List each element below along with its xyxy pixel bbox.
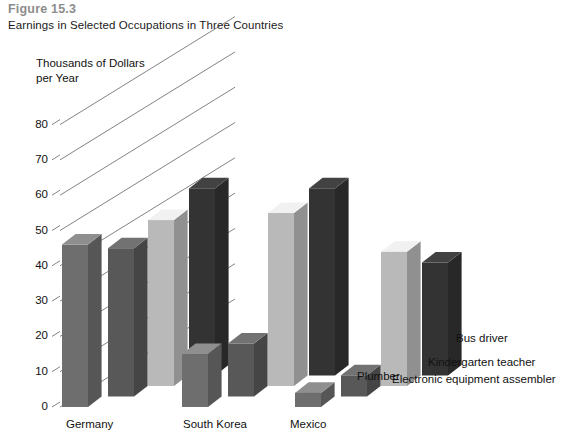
- bar-side-face: [208, 344, 222, 407]
- bar-side-face: [294, 202, 308, 386]
- bar-south-korea-electronic-equipment-assembler: [228, 333, 268, 396]
- bar-front-face: [148, 220, 174, 386]
- y-tick-mark-0: [52, 402, 60, 407]
- bar-mexico-plumber: [295, 382, 335, 407]
- bar-south-korea-plumber: [182, 344, 222, 407]
- gridline-70: [60, 52, 235, 160]
- y-tick-mark-80: [52, 120, 60, 125]
- bar-front-face: [268, 213, 294, 386]
- bar-front-face: [182, 354, 208, 407]
- bar-front-face: [381, 252, 407, 386]
- y-tick-label-60: 60: [22, 188, 48, 200]
- series-label-bus-driver: Bus driver: [456, 332, 508, 344]
- y-tick-label-10: 10: [22, 365, 48, 377]
- y-tick-label-50: 50: [22, 224, 48, 236]
- y-tick-mark-70: [52, 155, 60, 160]
- gridline-80: [60, 17, 235, 125]
- bar-germany-plumber: [62, 234, 102, 407]
- bar-germany-kindergarten-teacher: [148, 210, 188, 386]
- bar-south-korea-kindergarten-teacher: [268, 202, 308, 386]
- category-label-mexico: Mexico: [290, 418, 326, 430]
- bar-side-face: [407, 241, 421, 386]
- bar-front-face: [228, 344, 254, 397]
- bar-south-korea-bus-driver: [309, 178, 349, 376]
- chart-plot-area: [0, 0, 581, 433]
- y-tick-label-0: 0: [22, 400, 48, 412]
- y-tick-label-70: 70: [22, 153, 48, 165]
- y-tick-mark-10: [52, 367, 60, 372]
- category-label-south-korea: South Korea: [183, 418, 247, 430]
- figure-container: Figure 15.3 Earnings in Selected Occupat…: [0, 0, 581, 433]
- series-label-electronic-equipment-assembler: Electronic equipment assembler: [392, 373, 556, 385]
- category-label-germany: Germany: [66, 418, 113, 430]
- bar-mexico-kindergarten-teacher: [381, 241, 421, 386]
- y-tick-mark-30: [52, 296, 60, 301]
- y-tick-label-30: 30: [22, 294, 48, 306]
- bar-side-face: [88, 234, 102, 407]
- bar-side-face: [254, 333, 268, 396]
- bar-side-face: [134, 238, 148, 397]
- y-tick-label-40: 40: [22, 259, 48, 271]
- y-tick-mark-40: [52, 261, 60, 266]
- bar-front-face: [309, 188, 335, 375]
- y-tick-mark-20: [52, 331, 60, 336]
- y-tick-mark-50: [52, 226, 60, 231]
- bar-side-face: [335, 178, 349, 376]
- bar-front-face: [295, 393, 321, 407]
- y-tick-label-80: 80: [22, 118, 48, 130]
- series-label-kindergarten-teacher: Kindergarten teacher: [428, 356, 535, 368]
- bar-front-face: [108, 248, 134, 396]
- y-tick-mark-60: [52, 190, 60, 195]
- bar-front-face: [62, 245, 88, 407]
- y-tick-label-20: 20: [22, 329, 48, 341]
- bar-germany-electronic-equipment-assembler: [108, 238, 148, 397]
- chart-svg: [0, 0, 581, 433]
